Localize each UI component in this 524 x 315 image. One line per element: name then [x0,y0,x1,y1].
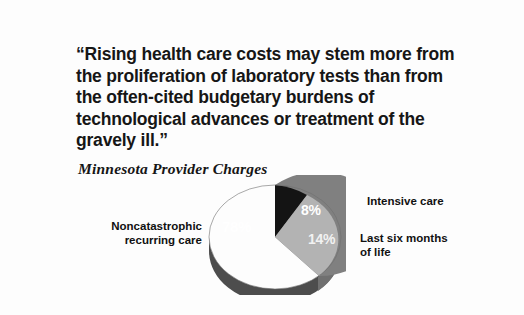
pie-label-intensive-care: Intensive care [367,195,444,209]
pie-value-noncatastrophic: 78% [222,218,251,235]
pie-label-last-six-months: Last six months of life [360,232,448,259]
pie-value-intensive-care: 8% [301,202,321,218]
pie-value-last-six-months: 14% [308,231,335,247]
infographic-page: “Rising health care costs may stem more … [0,0,524,315]
page-headline: “Rising health care costs may stem more … [76,44,472,152]
pie-chart: 78% 8% 14% Noncatastrophic recurring car… [0,170,524,300]
pie-label-noncatastrophic: Noncatastrophic recurring care [62,220,202,247]
